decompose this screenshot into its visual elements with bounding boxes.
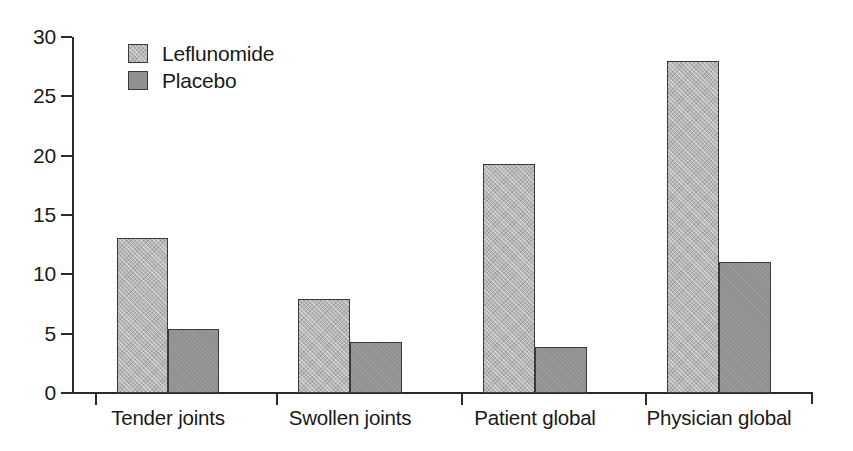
bar-placebo-physician-global (719, 262, 771, 393)
y-axis-tick-label: 10 (16, 263, 56, 284)
y-axis-tick (61, 36, 72, 38)
y-axis-tick (61, 214, 72, 216)
y-axis-tick-label: 15 (16, 204, 56, 225)
bar-placebo-patient-global (535, 347, 587, 393)
legend-item-placebo: Placebo (128, 67, 274, 94)
bar-leflunomide-patient-global (483, 164, 535, 393)
bar-chart: Leflunomide Placebo 051015202530 Tender … (0, 0, 853, 451)
legend-label-placebo: Placebo (162, 70, 237, 91)
bar-leflunomide-physician-global (667, 61, 719, 393)
legend-swatch-placebo (128, 71, 148, 90)
bar-placebo-tender-joints (168, 329, 219, 393)
legend-item-leflunomide: Leflunomide (128, 40, 274, 67)
y-axis-tick-label: 5 (16, 323, 56, 344)
x-axis-tick (95, 394, 97, 405)
x-axis-label: Physician global (609, 406, 829, 430)
legend-swatch-leflunomide (128, 44, 148, 63)
y-axis-tick-label: 30 (16, 26, 56, 47)
x-axis-tick (276, 394, 278, 405)
bar-leflunomide-tender-joints (117, 238, 168, 393)
y-axis-tick (61, 333, 72, 335)
x-axis-end-tick (811, 392, 813, 404)
legend-label-leflunomide: Leflunomide (162, 43, 274, 64)
chart-legend: Leflunomide Placebo (128, 40, 274, 94)
bar-leflunomide-swollen-joints (298, 299, 350, 393)
y-axis-line (72, 37, 74, 394)
y-axis-tick-label: 0 (16, 382, 56, 403)
x-axis-tick (461, 394, 463, 405)
y-axis-tick (61, 95, 72, 97)
y-axis-tick (61, 392, 72, 394)
x-axis-tick (645, 394, 647, 405)
y-axis-tick-labels: 051015202530 (8, 0, 56, 451)
y-axis-tick-label: 20 (16, 145, 56, 166)
y-axis-tick (61, 273, 72, 275)
y-axis-tick-label: 25 (16, 85, 56, 106)
bar-placebo-swollen-joints (350, 342, 402, 393)
y-axis-tick (61, 155, 72, 157)
